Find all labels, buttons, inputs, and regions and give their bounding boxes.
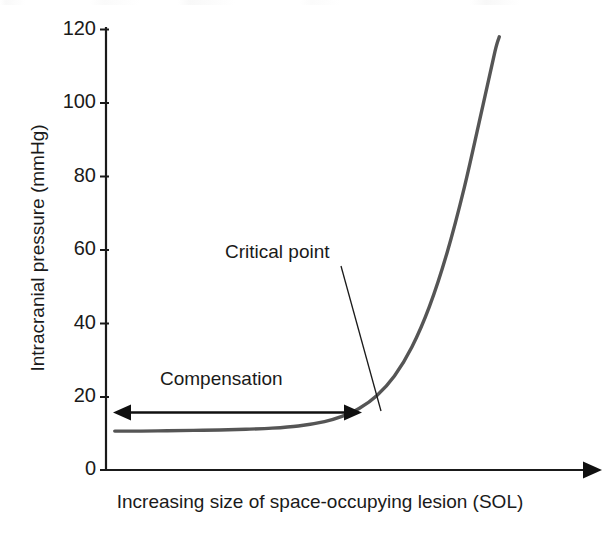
y-axis-tick-labels: 120 100 80 60 40 20 0 xyxy=(63,17,96,479)
y-axis-title: Intracranial pressure (mmHg) xyxy=(27,124,48,371)
critical-point-label: Critical point xyxy=(225,241,330,262)
chart-figure: 120 100 80 60 40 20 0 Critical point xyxy=(0,0,612,534)
y-tick-label-60: 60 xyxy=(74,237,96,259)
icp-compliance-chart: 120 100 80 60 40 20 0 Critical point xyxy=(0,0,612,534)
x-axis-title: Increasing size of space-occupying lesio… xyxy=(117,491,524,512)
x-axis-arrowhead-icon xyxy=(583,462,602,479)
y-tick-label-80: 80 xyxy=(74,164,96,186)
y-tick-label-0: 0 xyxy=(85,457,96,479)
y-tick-label-40: 40 xyxy=(74,311,96,333)
compensation-label: Compensation xyxy=(160,368,283,389)
critical-point-leader-line xyxy=(341,266,381,411)
compensation-left-arrowhead-icon xyxy=(113,405,131,421)
scan-artifact-strip xyxy=(0,0,612,5)
y-tick-label-100: 100 xyxy=(63,90,96,112)
y-tick-label-120: 120 xyxy=(63,17,96,39)
y-tick-label-20: 20 xyxy=(74,384,96,406)
compensation-annotation: Compensation xyxy=(113,368,362,421)
y-axis-ticks xyxy=(100,30,109,471)
axis-lines xyxy=(106,28,588,470)
